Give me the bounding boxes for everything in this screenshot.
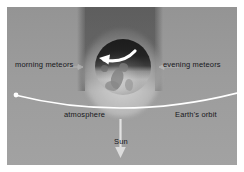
label-earths-orbit: Earth's orbit (175, 111, 217, 119)
label-morning-meteors: morning meteors (15, 61, 74, 69)
figure-root: morning meteors evening meteors atmosphe… (0, 0, 244, 172)
label-evening-meteors: evening meteors (163, 61, 221, 69)
label-atmosphere: atmosphere (64, 111, 105, 119)
down-arrow-icon (115, 147, 126, 158)
figure-frame: morning meteors evening meteors atmosphe… (7, 7, 237, 165)
label-sun: Sun (114, 138, 128, 146)
